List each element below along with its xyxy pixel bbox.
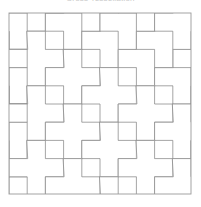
cross-tile xyxy=(191,122,201,177)
cross-tile xyxy=(0,68,9,123)
cross-tile xyxy=(191,13,201,68)
puzzle-page: Cross Tessellation xyxy=(0,0,201,207)
cross-tessellation-artwork xyxy=(0,0,201,207)
cross-tile xyxy=(191,68,201,123)
cross-tiles-group xyxy=(0,0,201,207)
cross-tile xyxy=(64,195,119,207)
cross-tile xyxy=(27,0,82,13)
cross-tile xyxy=(191,177,201,207)
